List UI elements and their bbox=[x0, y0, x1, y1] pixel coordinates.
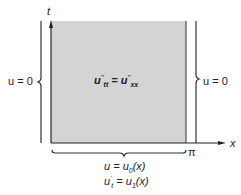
wave-equation: u''tt = u''xx bbox=[94, 74, 138, 88]
bottom-brace bbox=[52, 150, 186, 156]
initial-condition-displacement: u = u0(x) bbox=[104, 160, 146, 174]
left-brace bbox=[38, 21, 41, 143]
x-axis-label: x bbox=[230, 138, 236, 149]
x-axis-arrow-icon bbox=[218, 141, 226, 145]
right-brace bbox=[196, 21, 199, 143]
t-axis-label: t bbox=[47, 6, 50, 17]
initial-condition-velocity: u't = u1(x) bbox=[104, 175, 149, 189]
left-boundary-condition: u = 0 bbox=[8, 76, 33, 87]
pi-label: π bbox=[188, 147, 196, 158]
right-boundary-condition: u = 0 bbox=[203, 76, 228, 87]
